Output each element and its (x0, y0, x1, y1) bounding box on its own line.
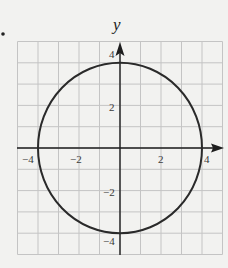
y-tick-label: −4 (103, 235, 115, 247)
axes (17, 42, 224, 255)
circle-graph: y −4 −2 2 4 4 2 −2 −4 (0, 0, 228, 268)
y-tick-label: 4 (109, 48, 115, 60)
y-tick-label: −2 (103, 186, 115, 198)
x-tick-label: −2 (70, 153, 82, 165)
x-tick-label: −4 (22, 153, 34, 165)
y-tick-label: 2 (109, 101, 115, 113)
y-axis-label: y (111, 15, 121, 34)
x-tick-label: 2 (158, 153, 164, 165)
bullet-dot (1, 32, 5, 36)
x-tick-label: 4 (204, 153, 210, 165)
